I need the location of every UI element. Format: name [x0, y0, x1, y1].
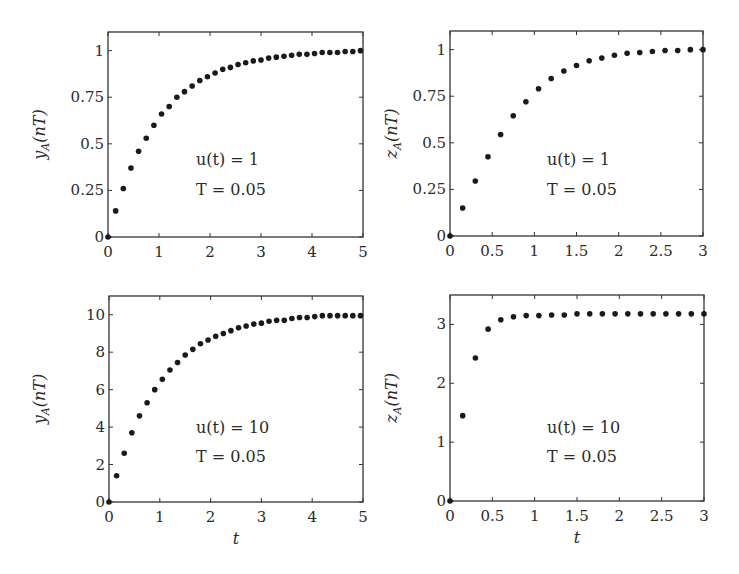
- data-point: [243, 60, 249, 66]
- data-point: [137, 413, 143, 419]
- data-point: [663, 311, 669, 317]
- x-tick-label: 2.5: [650, 507, 674, 525]
- data-point: [221, 331, 227, 337]
- data-point: [136, 148, 142, 154]
- data-point: [236, 325, 242, 331]
- y-tick-label: 0: [94, 228, 104, 246]
- y-tick-label: 0.25: [413, 180, 446, 198]
- y-tick-label: 3: [436, 315, 446, 333]
- y-tick-label: 10: [86, 306, 105, 324]
- data-point: [243, 323, 249, 329]
- x-tick-label: 0: [445, 242, 455, 260]
- data-point: [114, 473, 120, 479]
- data-point: [498, 132, 504, 138]
- x-tick-label: 5: [358, 243, 368, 261]
- data-point: [174, 94, 180, 100]
- data-point: [121, 186, 127, 192]
- subplot-bottom-right: 00.511.522.530123zA(nT)tu(t) = 10T = 0.0…: [382, 295, 709, 547]
- y-axis-label: zA(nT): [382, 373, 404, 424]
- data-point: [266, 318, 272, 324]
- data-point: [587, 311, 593, 317]
- data-point: [625, 311, 631, 317]
- data-point: [197, 78, 203, 84]
- data-point: [228, 328, 234, 334]
- data-point: [251, 321, 257, 327]
- data-point: [296, 52, 302, 58]
- annotation-period: T = 0.05: [547, 180, 617, 199]
- data-point: [297, 315, 303, 321]
- data-point: [485, 154, 491, 160]
- data-point: [688, 47, 694, 53]
- x-tick-label: 5: [358, 508, 368, 526]
- y-axis-label: yA(nT): [30, 109, 52, 160]
- x-tick-label: 3: [256, 243, 266, 261]
- x-tick-label: 1: [154, 243, 164, 261]
- annotation-input: u(t) = 10: [196, 418, 269, 437]
- x-tick-label: 2: [615, 507, 625, 525]
- data-point: [548, 76, 554, 82]
- x-tick-label: 0: [103, 243, 113, 261]
- data-point: [447, 233, 453, 239]
- data-point: [152, 387, 158, 393]
- data-point: [175, 360, 181, 366]
- data-point: [574, 63, 580, 69]
- x-tick-label: 1.5: [565, 242, 589, 260]
- data-point: [213, 333, 219, 339]
- data-point: [574, 311, 580, 317]
- data-point: [662, 48, 668, 54]
- x-tick-label: 1: [530, 242, 540, 260]
- x-tick-label: 0: [104, 508, 114, 526]
- x-tick-label: 2.5: [649, 242, 673, 260]
- data-point: [536, 86, 542, 92]
- data-point: [637, 50, 643, 56]
- y-tick-label: 1: [436, 41, 446, 59]
- data-point: [266, 55, 272, 61]
- data-point: [320, 313, 326, 319]
- data-point: [335, 313, 341, 319]
- data-point: [205, 337, 211, 343]
- data-point: [190, 347, 196, 353]
- data-point: [447, 498, 453, 504]
- data-point: [304, 315, 310, 321]
- data-point: [121, 451, 127, 457]
- data-point: [612, 52, 618, 58]
- x-axis-label: t: [233, 529, 240, 548]
- data-point: [281, 318, 287, 324]
- data-point: [274, 318, 280, 324]
- data-point: [220, 66, 226, 72]
- y-tick-label: 1: [436, 433, 446, 451]
- data-point: [599, 55, 605, 61]
- data-point: [251, 58, 257, 64]
- data-point: [198, 341, 204, 347]
- data-point: [166, 104, 172, 110]
- data-point: [350, 313, 356, 319]
- x-tick-label: 4: [307, 508, 317, 526]
- data-point: [319, 50, 325, 56]
- data-point: [312, 314, 318, 320]
- y-tick-label: 6: [95, 381, 105, 399]
- x-tick-label: 0: [445, 507, 455, 525]
- y-axis-label: yA(nT): [30, 374, 52, 425]
- y-tick-label: 2: [436, 374, 446, 392]
- axes-frame: [450, 31, 703, 236]
- data-point: [523, 313, 529, 319]
- data-point: [167, 367, 173, 373]
- data-point: [498, 317, 504, 323]
- annotation-input: u(t) = 10: [547, 418, 620, 437]
- annotation-input: u(t) = 1: [196, 150, 259, 169]
- data-point: [624, 51, 630, 57]
- data-point: [113, 208, 119, 214]
- data-point: [259, 320, 265, 326]
- x-tick-label: 2: [205, 243, 215, 261]
- x-tick-label: 2: [614, 242, 624, 260]
- annotation-period: T = 0.05: [196, 447, 266, 466]
- data-point: [212, 70, 218, 76]
- data-point: [235, 62, 241, 68]
- data-point: [358, 313, 364, 319]
- data-point: [350, 49, 356, 55]
- annotation-input: u(t) = 1: [547, 150, 610, 169]
- y-tick-label: 2: [95, 456, 105, 474]
- data-point: [600, 311, 606, 317]
- data-point: [460, 205, 466, 211]
- x-tick-label: 0.5: [480, 507, 504, 525]
